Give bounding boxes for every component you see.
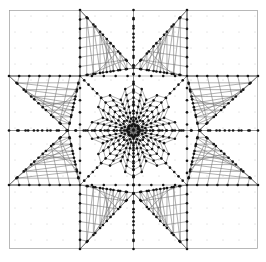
mesh-vertex — [186, 9, 189, 12]
mesh-vertex — [124, 171, 127, 174]
mesh-edge — [164, 35, 187, 38]
mesh-vertex — [123, 133, 126, 136]
mesh-vertex — [132, 128, 135, 131]
mesh-edge — [51, 76, 60, 115]
mesh-vertex — [149, 129, 152, 132]
mesh-edge — [166, 163, 187, 185]
grid-dot — [190, 47, 192, 49]
grid-dot — [206, 175, 208, 177]
grid-dot — [46, 223, 48, 225]
mesh-vertex — [174, 121, 177, 124]
grid-dot — [30, 159, 32, 161]
mesh-vertex — [85, 74, 88, 77]
grid-dot — [190, 63, 192, 65]
grid-dot — [174, 127, 176, 129]
mesh-vertex — [186, 65, 189, 68]
mesh-vertex — [151, 111, 154, 114]
mesh-vertex — [139, 68, 142, 71]
grid-dot — [190, 143, 192, 145]
mesh-vertex — [126, 184, 129, 187]
mesh-vertex — [137, 153, 140, 156]
mesh-vertex — [79, 193, 82, 196]
mesh-vertex — [33, 129, 36, 132]
mesh-vertex — [119, 52, 122, 55]
mesh-vertex — [166, 227, 169, 230]
mesh-vertex — [174, 184, 177, 187]
mesh-vertex — [180, 129, 183, 132]
grid-dot — [142, 15, 144, 17]
grid-dot — [30, 191, 32, 193]
grid-dot — [174, 143, 176, 145]
mesh-vertex — [18, 184, 21, 187]
mesh-vertex — [22, 88, 25, 91]
grid-dot — [14, 111, 16, 113]
mesh-vertex — [249, 82, 252, 85]
mesh-vertex — [102, 109, 105, 112]
mesh-vertex — [142, 129, 145, 132]
mesh-vertex — [87, 83, 90, 86]
mesh-vertex — [38, 184, 41, 187]
mesh-vertex — [139, 139, 142, 142]
mesh-vertex — [170, 25, 173, 28]
mesh-vertex — [132, 208, 135, 211]
grid-dot — [238, 239, 240, 241]
mesh-vertex — [119, 124, 122, 127]
mesh-vertex — [122, 122, 125, 125]
mesh-vertex — [129, 138, 132, 141]
mesh-edge — [228, 162, 233, 185]
mesh-vertex — [71, 150, 74, 153]
mesh-vertex — [228, 129, 231, 132]
grid-dot — [46, 79, 48, 81]
mesh-vertex — [173, 88, 176, 91]
mesh-vertex — [215, 114, 218, 117]
mesh-vertex — [138, 100, 141, 103]
mesh-vertex — [15, 82, 18, 85]
mesh-vertex — [132, 18, 135, 21]
mesh-vertex — [45, 109, 48, 112]
mesh-vertex — [123, 138, 126, 141]
mesh-vertex — [132, 45, 135, 48]
grid-dot — [62, 47, 64, 49]
mesh-vertex — [79, 65, 82, 68]
mesh-vertex — [132, 9, 135, 12]
mesh-edge — [98, 120, 107, 124]
mesh-vertex — [105, 220, 108, 223]
mesh-vertex — [22, 170, 25, 173]
mesh-vertex — [121, 155, 124, 158]
mesh-vertex — [220, 150, 223, 153]
grid-dot — [206, 239, 208, 241]
mesh-vertex — [97, 153, 100, 156]
mesh-vertex — [163, 117, 166, 120]
mesh-vertex — [143, 155, 146, 158]
grid-dot — [62, 207, 64, 209]
mesh-vertex — [163, 142, 166, 145]
mesh-vertex — [132, 160, 135, 163]
mesh-vertex — [112, 70, 115, 73]
grid-dot — [142, 207, 144, 209]
mesh-vertex — [144, 127, 147, 130]
grid-dot — [78, 207, 80, 209]
mesh-vertex — [132, 168, 135, 171]
mesh-vertex — [162, 135, 165, 138]
mesh-vertex — [115, 122, 118, 125]
grid-dot — [62, 15, 64, 17]
mesh-edge — [207, 146, 216, 185]
grid-dot — [46, 63, 48, 65]
mesh-vertex — [156, 124, 159, 127]
mesh-vertex — [123, 120, 126, 123]
mesh-vertex — [79, 147, 82, 150]
grid-dot — [78, 15, 80, 17]
grid-dot — [14, 143, 16, 145]
mesh-vertex — [122, 114, 125, 117]
grid-dot — [158, 15, 160, 17]
mesh-vertex — [72, 153, 75, 156]
mesh-vertex — [186, 211, 189, 214]
mesh-vertex — [52, 116, 55, 119]
mesh-vertex — [167, 106, 170, 109]
grid-dot — [110, 31, 112, 33]
mesh-vertex — [79, 123, 82, 126]
mesh-vertex — [112, 189, 115, 192]
mesh-vertex — [156, 164, 159, 167]
mesh-vertex — [102, 71, 105, 74]
mesh-vertex — [151, 129, 154, 132]
